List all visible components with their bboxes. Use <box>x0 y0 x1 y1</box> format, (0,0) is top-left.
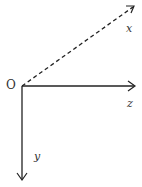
z-axis <box>22 81 135 91</box>
y-axis-label: y <box>34 151 40 162</box>
coordinate-axes-diagram <box>0 0 142 187</box>
x-axis <box>22 6 134 86</box>
origin-label: O <box>6 79 16 91</box>
y-axis <box>17 86 27 180</box>
z-axis-label: z <box>127 98 133 109</box>
x-axis-label: x <box>126 23 132 34</box>
